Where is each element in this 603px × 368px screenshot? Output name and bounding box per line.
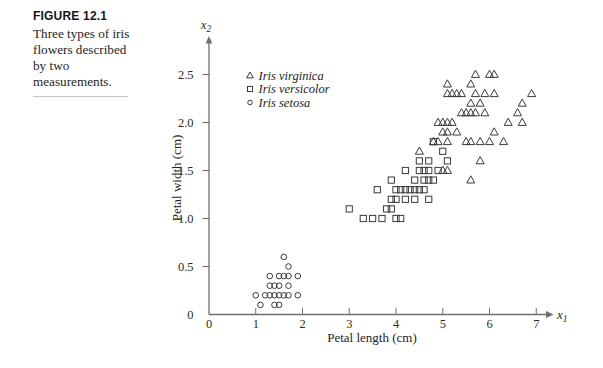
triangle-data-point xyxy=(514,109,522,116)
square-data-point xyxy=(346,206,352,212)
x-tick-label: 0 xyxy=(206,317,212,331)
square-data-point xyxy=(421,167,427,173)
y-tick-label: 0.5 xyxy=(178,260,194,274)
legend-label: Iris versicolor xyxy=(258,82,330,96)
series-iris-virginica xyxy=(415,70,535,183)
triangle-data-point xyxy=(443,80,451,87)
square-data-point xyxy=(426,158,432,164)
x-tick-label: 5 xyxy=(440,317,446,331)
triangle-data-point xyxy=(528,89,536,96)
square-data-point xyxy=(388,177,394,183)
square-data-point xyxy=(360,215,366,221)
iris-scatter-plot: 0123456700.51.01.52.02.5Petal length (cm… xyxy=(0,0,603,368)
triangle-data-point xyxy=(481,89,489,96)
square-data-point xyxy=(430,177,436,183)
triangle-data-point xyxy=(500,137,508,144)
square-data-point xyxy=(426,167,432,173)
y-tick-label: 2.5 xyxy=(178,68,194,82)
square-legend-marker-icon xyxy=(247,86,252,91)
square-data-point xyxy=(412,196,418,202)
triangle-data-point xyxy=(490,89,498,96)
triangle-data-point xyxy=(415,147,423,154)
y-tick-label: 0 xyxy=(187,308,193,322)
square-data-point xyxy=(393,215,399,221)
square-data-point xyxy=(398,215,404,221)
triangle-data-point xyxy=(471,89,479,96)
square-data-point xyxy=(421,187,427,193)
circle-data-point xyxy=(295,293,301,299)
triangle-data-point xyxy=(476,99,484,106)
triangle-data-point xyxy=(467,80,475,87)
square-data-point xyxy=(402,187,408,193)
y-axis-arrowhead-icon xyxy=(206,36,213,44)
square-data-point xyxy=(388,206,394,212)
square-data-point xyxy=(416,187,422,193)
square-data-point xyxy=(407,187,413,193)
square-data-point xyxy=(421,177,427,183)
triangle-legend-marker-icon xyxy=(247,72,254,78)
square-data-point xyxy=(426,196,432,202)
legend-label: Iris setosa xyxy=(258,96,311,110)
square-data-point xyxy=(379,215,385,221)
x-tick-label: 6 xyxy=(486,317,492,331)
circle-legend-marker-icon xyxy=(248,100,253,105)
x-tick-label: 2 xyxy=(299,317,305,331)
square-data-point xyxy=(412,187,418,193)
square-data-point xyxy=(416,167,422,173)
triangle-data-point xyxy=(443,137,451,144)
square-data-point xyxy=(374,187,380,193)
series-iris-setosa xyxy=(253,254,301,308)
square-data-point xyxy=(412,177,418,183)
square-data-point xyxy=(440,148,446,154)
y-tick-label: 2.0 xyxy=(178,116,194,130)
x-tick-label: 1 xyxy=(253,317,259,331)
circle-data-point xyxy=(253,293,259,299)
square-data-point xyxy=(426,177,432,183)
textbook-figure-page: FIGURE 12.1 Three types of iris flowers … xyxy=(0,0,603,368)
triangle-data-point xyxy=(486,137,494,144)
plot-legend: Iris virginicaIris versicolorIris setosa xyxy=(247,69,330,110)
square-data-point xyxy=(402,196,408,202)
y-axis-symbol: x2 xyxy=(200,17,212,34)
triangle-data-point xyxy=(453,128,461,135)
triangle-data-point xyxy=(476,137,484,144)
square-data-point xyxy=(370,215,376,221)
y-axis-title: Petal width (cm) xyxy=(169,135,184,222)
legend-label: Iris virginica xyxy=(258,69,324,83)
square-data-point xyxy=(393,196,399,202)
square-data-point xyxy=(416,158,422,164)
triangle-data-point xyxy=(467,176,475,183)
square-data-point xyxy=(393,187,399,193)
square-data-point xyxy=(444,158,450,164)
triangle-data-point xyxy=(467,99,475,106)
triangle-data-point xyxy=(518,99,526,106)
square-data-point xyxy=(402,167,408,173)
square-data-point xyxy=(398,187,404,193)
square-data-point xyxy=(388,196,394,202)
square-data-point xyxy=(384,206,390,212)
circle-data-point xyxy=(295,273,301,279)
x-axis-symbol: x1 xyxy=(556,307,568,324)
triangle-data-point xyxy=(518,118,526,125)
triangle-data-point xyxy=(481,109,489,116)
x-axis-arrowhead-icon xyxy=(546,311,554,318)
triangle-data-point xyxy=(471,70,479,77)
circle-data-point xyxy=(281,254,287,260)
circle-data-point xyxy=(258,302,264,308)
triangle-data-point xyxy=(490,128,498,135)
x-tick-label: 7 xyxy=(533,317,539,331)
circle-data-point xyxy=(267,273,273,279)
circle-data-point xyxy=(286,264,292,270)
circle-data-point xyxy=(286,283,292,289)
series-iris-versicolor xyxy=(346,139,450,222)
x-axis-title: Petal length (cm) xyxy=(327,330,417,345)
triangle-data-point xyxy=(476,157,484,164)
triangle-data-point xyxy=(504,118,512,125)
